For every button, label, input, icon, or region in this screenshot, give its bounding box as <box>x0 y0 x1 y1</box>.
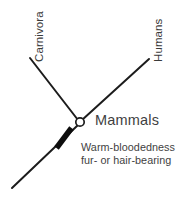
character-tick-icon <box>57 128 72 148</box>
node-label-mammals: Mammals <box>95 112 159 128</box>
cladogram-figure: Carnivora Humans Mammals Warm-bloodednes… <box>0 0 189 198</box>
trait-caption-line-2: fur- or hair-bearing <box>81 154 175 167</box>
branch-humans <box>82 59 149 120</box>
branch-carnivora <box>30 58 78 120</box>
trait-caption: Warm-bloodedness fur- or hair-bearing <box>81 141 175 167</box>
tip-label-carnivora: Carnivora <box>33 11 45 62</box>
node-circle-icon <box>76 118 84 126</box>
tip-label-humans: Humans <box>152 19 164 62</box>
trait-caption-line-1: Warm-bloodedness <box>81 141 175 154</box>
